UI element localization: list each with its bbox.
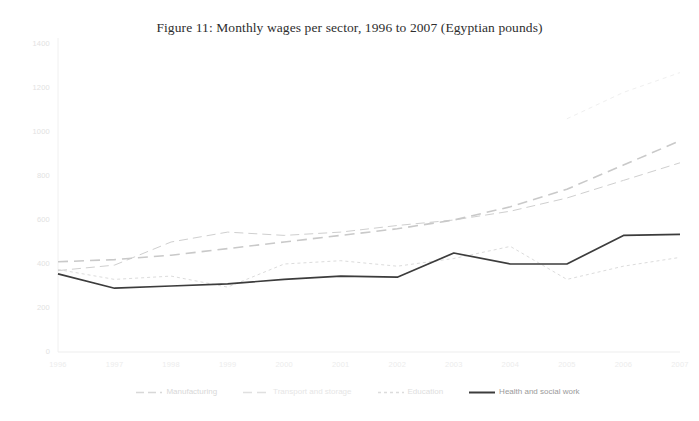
x-tick-label: 2006 bbox=[603, 360, 643, 369]
y-tick-label: 0 bbox=[16, 347, 50, 356]
legend-swatch-icon bbox=[378, 389, 404, 396]
x-tick-label: 2002 bbox=[377, 360, 417, 369]
x-tick-label: 1997 bbox=[95, 360, 135, 369]
y-tick-label: 1000 bbox=[16, 127, 50, 136]
y-tick-label: 800 bbox=[16, 171, 50, 180]
x-tick-label: 2003 bbox=[434, 360, 474, 369]
y-tick-label: 600 bbox=[16, 215, 50, 224]
x-tick-label: 2005 bbox=[547, 360, 587, 369]
y-tick-label: 400 bbox=[16, 259, 50, 268]
plot-area: 1400120010008006004002000 19961997199819… bbox=[0, 0, 699, 421]
x-tick-label: 1999 bbox=[208, 360, 248, 369]
x-tick-label: 1998 bbox=[151, 360, 191, 369]
legend-swatch-icon bbox=[136, 389, 162, 396]
series-line bbox=[58, 246, 680, 287]
x-tick-label: 2000 bbox=[264, 360, 304, 369]
x-tick-label: 1996 bbox=[38, 360, 78, 369]
series-line-faint-tail bbox=[567, 73, 680, 119]
legend-swatch-icon bbox=[243, 389, 269, 396]
y-tick-label: 1200 bbox=[16, 83, 50, 92]
legend-label: Transport and storage bbox=[273, 388, 351, 396]
legend-label: Health and social work bbox=[499, 388, 579, 396]
axes bbox=[58, 38, 680, 352]
legend-swatch-icon bbox=[469, 389, 495, 396]
y-tick-label: 200 bbox=[16, 303, 50, 312]
x-tick-label: 2007 bbox=[660, 360, 699, 369]
chart-legend: ManufacturingTransport and storageEducat… bbox=[58, 384, 658, 400]
legend-item[interactable]: Transport and storage bbox=[243, 388, 351, 396]
legend-label: Manufacturing bbox=[166, 388, 217, 396]
series-line bbox=[58, 234, 680, 288]
series-line bbox=[58, 141, 680, 262]
legend-item[interactable]: Health and social work bbox=[469, 388, 579, 396]
x-tick-label: 2004 bbox=[490, 360, 530, 369]
series-lines bbox=[58, 73, 680, 289]
legend-item[interactable]: Education bbox=[378, 388, 444, 396]
x-tick-label: 2001 bbox=[321, 360, 361, 369]
legend-item[interactable]: Manufacturing bbox=[136, 388, 217, 396]
figure-container: Figure 11: Monthly wages per sector, 199… bbox=[0, 0, 699, 421]
y-tick-label: 1400 bbox=[16, 39, 50, 48]
legend-label: Education bbox=[408, 388, 444, 396]
chart-svg bbox=[0, 0, 699, 421]
